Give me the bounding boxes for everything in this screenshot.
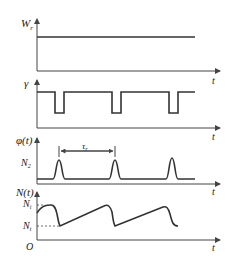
panel-photon-flux: τr φ(t) N2 t [16,134,220,197]
panel-inversion: N(t) Ni Nt O t [15,186,220,253]
panel-pump-rate: Wr t [21,17,220,86]
lower-level-label: Nt [22,220,32,232]
y-axis-label: φ(t) [16,134,33,147]
panel-loss: γ t [24,77,220,142]
x-axis-label: t [212,131,215,142]
inversion-curve [37,205,178,226]
y-axis-label: Wr [21,17,33,32]
period-label: τr [82,141,88,152]
upper-level-label: Ni [22,198,32,210]
loss-waveform [37,92,195,113]
level-label: N2 [20,157,31,169]
y-axis-label: γ [24,77,29,89]
x-axis-label: t [212,186,215,197]
pulse-train [37,158,195,179]
x-axis-label: t [212,75,215,86]
q-switch-timing-diagram: Wr t γ t τr φ(t) N2 t N(t) Ni Nt O t [0,0,234,264]
x-axis-label: t [212,242,215,253]
origin-label: O [26,241,33,252]
